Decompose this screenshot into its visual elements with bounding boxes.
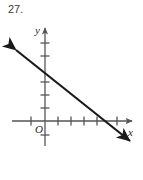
figure-container: 27. bbox=[0, 0, 143, 180]
plotted-line bbox=[16, 50, 130, 141]
y-axis-label: y bbox=[34, 24, 40, 36]
x-axis bbox=[12, 117, 132, 126]
origin-label: O bbox=[35, 123, 43, 135]
coordinate-graph: y x O bbox=[0, 0, 143, 180]
x-axis-label: x bbox=[127, 126, 133, 138]
linear-function-segment bbox=[16, 50, 130, 141]
